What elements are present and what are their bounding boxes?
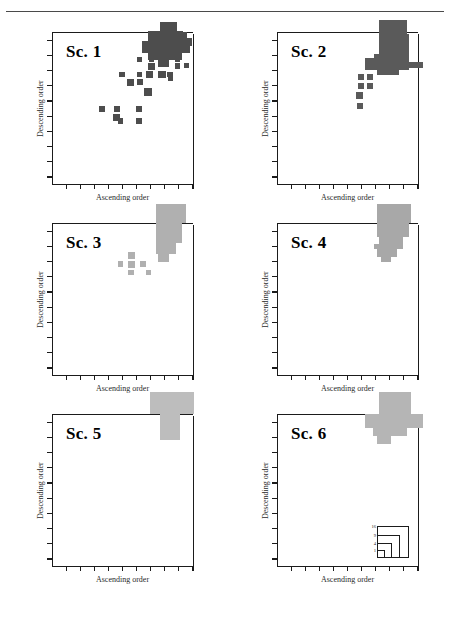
legend-label: 1 bbox=[367, 549, 376, 554]
figure-canvas: Sc. 1Ascending orderDescending orderSc. … bbox=[0, 0, 450, 625]
panel-title: Sc. 6 bbox=[291, 424, 327, 444]
y-axis-label: Descending order bbox=[261, 462, 270, 519]
x-axis-label: Ascending order bbox=[277, 575, 418, 584]
legend-label: 4 bbox=[367, 542, 376, 547]
x-axis-tick bbox=[403, 566, 404, 571]
x-axis-tick bbox=[305, 566, 306, 571]
cluster-block bbox=[373, 428, 407, 436]
x-axis-tick bbox=[361, 566, 362, 571]
x-axis-tick bbox=[347, 566, 348, 571]
cluster-block bbox=[365, 414, 423, 428]
x-axis-tick bbox=[319, 566, 320, 571]
cluster-block bbox=[377, 436, 391, 444]
x-axis-tick bbox=[389, 566, 390, 571]
x-axis-tick bbox=[417, 566, 418, 571]
legend-square-1 bbox=[377, 550, 385, 558]
cluster-block bbox=[379, 392, 411, 414]
legend-label: 9 bbox=[367, 534, 376, 539]
x-axis-tick bbox=[291, 566, 292, 571]
x-axis-tick bbox=[375, 566, 376, 571]
right-axis-line bbox=[418, 416, 419, 566]
x-axis-tick bbox=[333, 566, 334, 571]
size-legend bbox=[377, 526, 411, 560]
legend-label: 16 bbox=[367, 525, 376, 530]
